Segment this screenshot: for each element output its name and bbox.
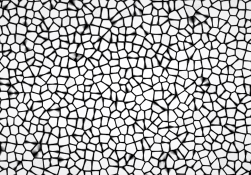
micrograph-image <box>0 0 251 175</box>
micrograph-figure: Grayscale optical micrograph of an equia… <box>0 0 251 175</box>
